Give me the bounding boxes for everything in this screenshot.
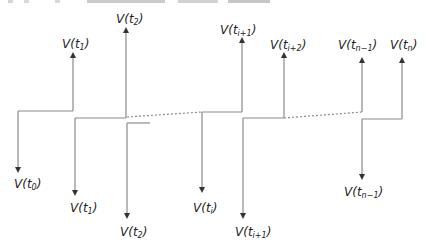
down-label-t0: V(t0) [14, 177, 41, 192]
down-label-tn1: V(tn−1) [344, 185, 383, 200]
up-label-tn1: V(tn−1) [338, 38, 377, 53]
down-labels: V(t0)V(t1)V(t2)V(ti)V(ti+1)V(tn−1) [14, 177, 383, 240]
up-label-tn: V(tn) [390, 38, 417, 53]
dotted-continuation-1 [127, 112, 202, 117]
down-label-t2: V(t2) [120, 225, 147, 240]
dotted-continuation-2 [284, 112, 362, 118]
up-label-ti2: V(ti+2) [270, 38, 306, 53]
down-label-ti: V(ti) [193, 201, 218, 216]
up-labels: V(t1)V(t2)V(ti+1)V(ti+2)V(tn−1)V(tn) [62, 12, 417, 53]
down-label-t1: V(t1) [70, 201, 97, 216]
up-label-t1: V(t1) [62, 37, 89, 52]
up-label-ti1: V(ti+1) [220, 23, 256, 38]
up-label-t2: V(t2) [116, 12, 143, 27]
value-tree-diagram: V(t1)V(t2)V(ti+1)V(ti+2)V(tn−1)V(tn) V(t… [0, 0, 426, 249]
down-label-ti1: V(ti+1) [235, 225, 271, 240]
